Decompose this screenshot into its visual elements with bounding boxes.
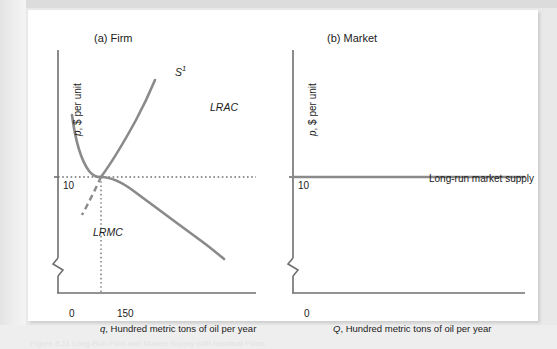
figure-panel-card: (a) Firm p, $ per unit q, Hundred metric… — [28, 10, 538, 321]
panel-b-origin-label: 0 — [304, 308, 310, 319]
panel-a-supply-curve — [101, 80, 155, 177]
panel-b-x-axis-units: , Hundred metric tons of oil per year — [340, 323, 491, 334]
panel-b-y-axis-units: , $ per unit — [307, 83, 318, 130]
panel-a-x-axis-units: , Hundred metric tons of oil per year — [105, 323, 256, 334]
panel-a-x-axis-label: q, Hundred metric tons of oil per year — [100, 323, 256, 334]
panel-b-y-axis-variable: p — [307, 130, 318, 136]
page-shadow-top — [0, 0, 557, 8]
panel-a-y-tick-label-10: 10 — [63, 180, 74, 191]
panel-a-y-axis-variable: p — [72, 130, 83, 136]
panel-a-lrmc-curve-label: LRMC — [93, 226, 123, 238]
panel-b-title: (b) Market — [327, 32, 377, 44]
panel-b-y-axis-break — [288, 258, 298, 276]
panel-a-supply-curve-label-base: S — [175, 66, 182, 78]
panel-b-y-axis-label: p, $ per unit — [307, 83, 318, 136]
panel-a-x-tick-label-150: 150 — [117, 308, 134, 319]
figure-plot-area — [28, 10, 538, 321]
panel-a-title: (a) Firm — [94, 32, 133, 44]
panel-a-lrac-curve-label: LRAC — [210, 101, 238, 113]
panel-b-market-supply-label: Long-run market supply — [429, 173, 534, 184]
figure-caption-clipped: Figure 8.11 Long-Run Firm and Market Sup… — [30, 339, 510, 348]
panel-a-y-axis-break — [53, 258, 63, 276]
panel-b-y-tick-label-10: 10 — [298, 180, 309, 191]
page-shadow-left — [0, 0, 26, 349]
panel-a-supply-curve-label-superscript: 1 — [182, 64, 186, 73]
panel-a-origin-label: 0 — [69, 308, 75, 319]
panel-a-lrmc-dashed-segment — [82, 177, 101, 215]
panel-a-y-axis-label: p, $ per unit — [72, 83, 83, 136]
panel-b-x-axis-label: Q, Hundred metric tons of oil per year — [333, 323, 491, 334]
figure-root: (a) Firm p, $ per unit q, Hundred metric… — [0, 0, 557, 349]
panel-a-supply-curve-label: S1 — [175, 64, 186, 78]
panel-a-y-axis-units: , $ per unit — [72, 83, 83, 130]
